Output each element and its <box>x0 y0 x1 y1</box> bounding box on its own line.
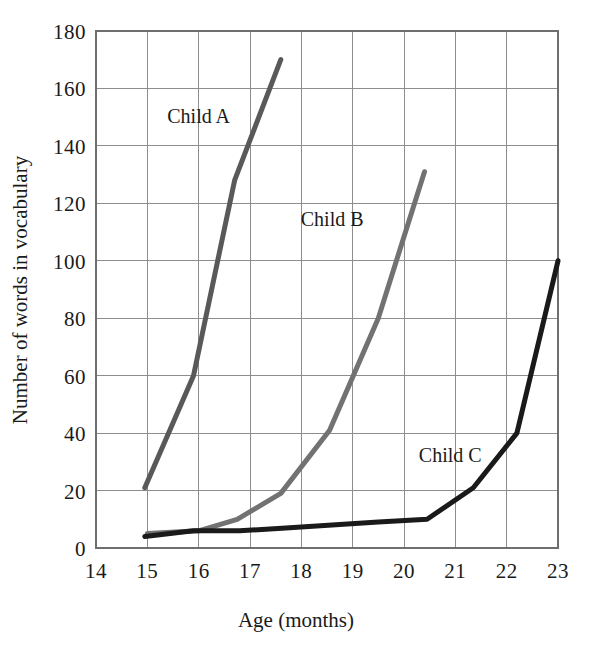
y-tick-label: 100 <box>53 250 86 274</box>
series-label-child-a: Child A <box>167 105 230 127</box>
chart-canvas: 020406080100120140160180 141516171819202… <box>0 0 591 648</box>
y-tick-label: 60 <box>64 365 86 389</box>
vocabulary-growth-chart: 020406080100120140160180 141516171819202… <box>0 0 591 648</box>
x-tick-label: 20 <box>393 559 415 583</box>
x-tick-label: 23 <box>547 559 569 583</box>
y-tick-label: 40 <box>64 422 86 446</box>
series-label-child-b: Child B <box>301 208 364 230</box>
y-axis-title: Number of words in vocabulary <box>8 155 32 424</box>
series-label-child-c: Child C <box>419 444 482 466</box>
chart-background <box>0 0 591 648</box>
y-tick-label: 20 <box>64 480 86 504</box>
y-tick-label: 140 <box>53 135 86 159</box>
x-tick-label: 21 <box>444 559 466 583</box>
x-tick-label: 14 <box>85 559 107 583</box>
x-axis-title: Age (months) <box>238 608 354 632</box>
x-tick-label: 16 <box>188 559 210 583</box>
y-tick-label: 0 <box>75 537 86 561</box>
x-tick-label: 17 <box>239 559 261 583</box>
x-tick-label: 15 <box>136 559 158 583</box>
x-tick-label: 22 <box>496 559 518 583</box>
x-tick-label: 18 <box>290 559 312 583</box>
x-tick-label: 19 <box>342 559 364 583</box>
y-tick-label: 80 <box>64 307 86 331</box>
y-tick-label: 160 <box>53 77 86 101</box>
y-tick-label: 180 <box>53 20 86 44</box>
y-tick-label: 120 <box>53 192 86 216</box>
